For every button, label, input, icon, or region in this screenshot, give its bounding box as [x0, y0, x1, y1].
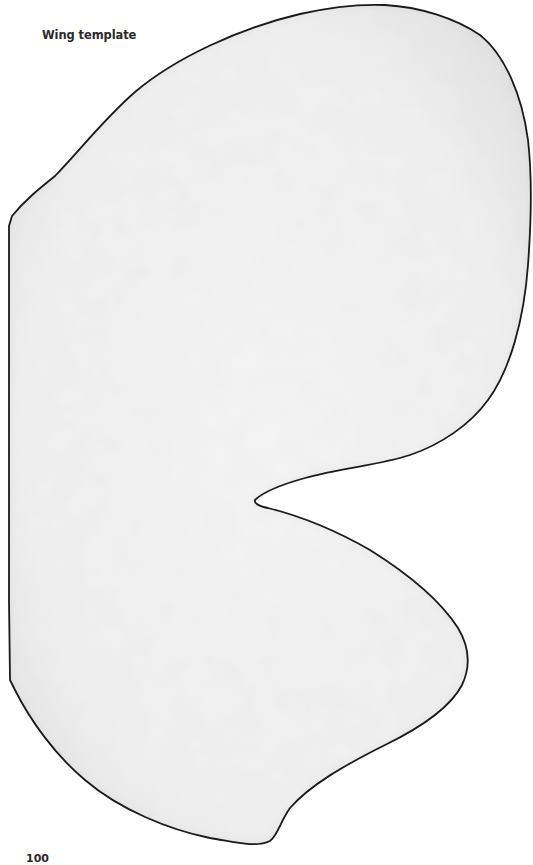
page-number: 100 — [26, 852, 49, 865]
page-title: Wing template — [42, 28, 136, 42]
